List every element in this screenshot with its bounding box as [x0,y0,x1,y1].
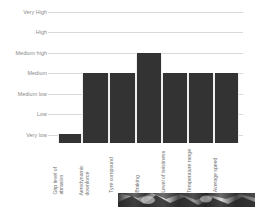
y-tick-stub [48,73,58,74]
y-axis-tick-label: Medium [28,70,47,76]
x-axis-tick-text: Level of twistiness [161,145,167,193]
bar-aerodynamic-downforce[interactable] [82,73,109,143]
y-axis-tick-label: Medium high [16,50,47,56]
bar-tyre-compound[interactable] [109,73,136,143]
y-axis-tick-label: Very High [23,9,47,15]
y-tick-stub [48,53,58,54]
x-axis-tick-text: Grip level of abrasion [53,149,64,195]
bars-group [58,12,239,143]
x-axis-tick-text: Temperature range [187,145,193,193]
y-tick-stub [48,94,58,95]
x-axis-tick-label: Temperature range [188,145,214,195]
y-axis-tick-label: Low [37,111,47,117]
x-axis-tick-label: Average speed [214,145,239,195]
bar-grip-level-of-abrasion[interactable] [58,134,82,143]
y-tick-stub [48,114,58,115]
x-axis-tick-text: Average speed [213,145,219,192]
x-axis: Grip level of abrasion Aerodynamic downf… [58,145,239,195]
x-axis-tick-label: Aerodynamic downforce [82,145,109,195]
bar-chart: Very High High Medium high Medium Medium… [0,0,255,207]
y-axis-tick-label: Very low [26,132,47,138]
x-axis-tick-text: Braking [135,145,141,193]
x-axis-tick-text: Aerodynamic downforce [79,148,90,196]
photo-strip-graphic [118,193,255,207]
y-tick-stub [48,12,58,13]
bar-level-of-twistiness[interactable] [162,73,188,143]
x-axis-tick-label: Tyre compound [109,145,136,195]
x-axis-tick-label: Level of twistiness [162,145,188,195]
y-tick-stub [48,135,58,136]
y-tick-stub [48,32,58,33]
bar-braking[interactable] [136,53,162,143]
y-axis-tick-label: High [36,29,47,35]
x-axis-tick-label: Braking [136,145,162,195]
photo-strip [118,193,255,207]
bar-average-speed[interactable] [214,73,239,143]
y-axis-tick-label: Medium low [18,91,47,97]
bar-temperature-range[interactable] [188,73,214,143]
x-axis-tick-text: Tyre compound [109,145,115,193]
